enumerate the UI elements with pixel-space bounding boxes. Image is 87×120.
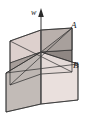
w-axis-label: w bbox=[31, 8, 37, 17]
plane-b-label: B bbox=[73, 60, 79, 70]
figure-canvas: w A B bbox=[0, 0, 87, 120]
w-axis-arrowhead-icon bbox=[38, 8, 44, 17]
geometry-figure: w A B bbox=[0, 0, 87, 120]
plane-a-label: A bbox=[70, 20, 77, 30]
